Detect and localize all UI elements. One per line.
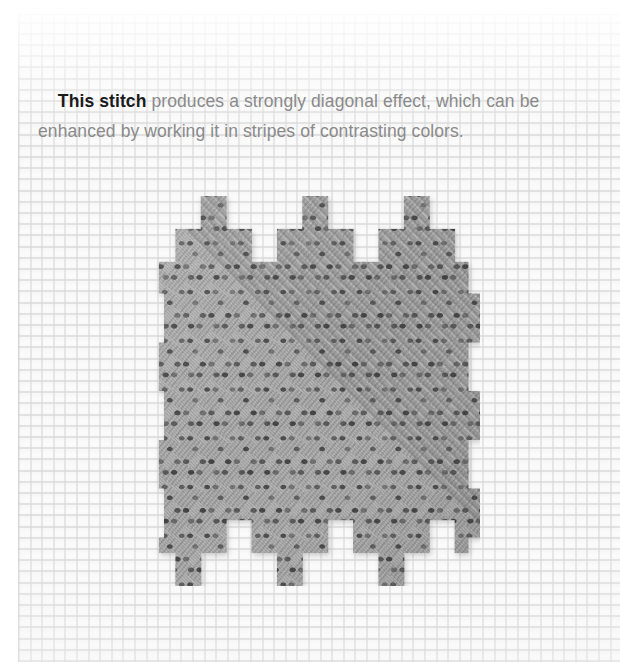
caption-text: This stitch produces a strongly diagonal… [38, 56, 578, 176]
caption-lead: This stitch [58, 91, 147, 111]
stitch-swatch [150, 196, 480, 586]
stitch-sample-page: This stitch produces a strongly diagonal… [0, 0, 620, 662]
stitch-swatch-canvas [150, 196, 480, 586]
